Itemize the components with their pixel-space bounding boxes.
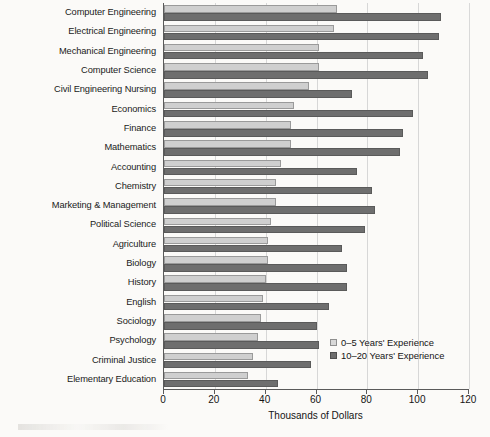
bar-light (164, 140, 291, 148)
category-label: Mathematics (104, 142, 156, 152)
x-tick-label-0: 0 (160, 394, 166, 405)
category-label: English (126, 297, 156, 307)
category-axis-labels: Computer EngineeringElectrical Engineeri… (0, 0, 160, 390)
bar-light (164, 314, 261, 322)
bar-dark (164, 361, 311, 369)
bar-dark (164, 380, 278, 388)
bar-dark (164, 341, 319, 349)
category-label: Mechanical Engineering (59, 46, 156, 56)
category-label: Computer Science (81, 65, 156, 75)
bar-light (164, 237, 268, 245)
bar-dark (164, 187, 372, 195)
legend: 0–5 Years' Experience 10–20 Years' Exper… (330, 336, 444, 362)
category-label: Elementary Education (67, 374, 156, 384)
gridline-40 (266, 3, 267, 389)
legend-swatch-dark-icon (330, 352, 337, 359)
legend-swatch-light-icon (330, 339, 337, 346)
x-tick-label-100: 100 (409, 394, 426, 405)
category-label: Finance (124, 123, 156, 133)
x-tick-label-120: 120 (460, 394, 477, 405)
category-label: Agriculture (113, 239, 156, 249)
gridline-80 (367, 3, 368, 389)
plot-area (163, 3, 469, 390)
bar-light (164, 372, 248, 380)
category-label: Accounting (111, 162, 156, 172)
bar-light (164, 256, 268, 264)
bar-dark (164, 245, 342, 253)
bar-dark (164, 168, 357, 176)
gridline-20 (215, 3, 216, 389)
bar-light (164, 82, 309, 90)
bar-dark (164, 226, 365, 234)
bar-dark (164, 264, 347, 272)
x-tick-label-20: 20 (208, 394, 219, 405)
bar-light (164, 63, 319, 71)
bar-dark (164, 148, 400, 156)
bar-light (164, 179, 276, 187)
plot-right-edge (469, 3, 470, 389)
bar-light (164, 44, 319, 52)
bar-light (164, 25, 334, 33)
legend-label-1: 10–20 Years' Experience (341, 350, 444, 361)
category-label: Sociology (117, 316, 156, 326)
bar-light (164, 102, 294, 110)
category-label: Chemistry (115, 181, 156, 191)
category-label: Economics (111, 104, 156, 114)
bar-dark (164, 110, 413, 118)
category-label: Computer Engineering (65, 7, 156, 17)
x-axis-title: Thousands of Dollars (163, 410, 468, 421)
bar-dark (164, 13, 441, 21)
bar-dark (164, 90, 352, 98)
legend-item-0: 0–5 Years' Experience (330, 336, 444, 349)
bar-dark (164, 52, 423, 60)
legend-label-0: 0–5 Years' Experience (341, 337, 434, 348)
bar-dark (164, 206, 375, 214)
category-label: Psychology (109, 335, 156, 345)
bar-light (164, 218, 271, 226)
category-label: Political Science (90, 219, 156, 229)
bar-light (164, 121, 291, 129)
bar-light (164, 275, 266, 283)
bar-light (164, 198, 276, 206)
category-label: History (128, 277, 156, 287)
bar-light (164, 333, 258, 341)
bar-dark (164, 33, 439, 41)
bar-light (164, 5, 337, 13)
x-tick-label-60: 60 (310, 394, 321, 405)
x-tick-label-40: 40 (259, 394, 270, 405)
bar-light (164, 160, 281, 168)
category-label: Marketing & Management (52, 200, 156, 210)
category-label: Criminal Justice (92, 355, 156, 365)
legend-item-1: 10–20 Years' Experience (330, 349, 444, 362)
category-label: Civil Engineering Nursing (54, 84, 156, 94)
bar-chart: Computer EngineeringElectrical Engineeri… (0, 0, 490, 437)
x-tick-label-80: 80 (361, 394, 372, 405)
bar-dark (164, 303, 329, 311)
gridline-60 (317, 3, 318, 389)
bar-dark (164, 129, 403, 137)
bar-light (164, 353, 253, 361)
scan-artifact (18, 424, 168, 430)
category-label: Biology (126, 258, 156, 268)
bar-dark (164, 71, 428, 79)
bar-dark (164, 283, 347, 291)
gridline-100 (418, 3, 419, 389)
bar-dark (164, 322, 317, 330)
category-label: Electrical Engineering (68, 26, 156, 36)
bar-light (164, 295, 263, 303)
